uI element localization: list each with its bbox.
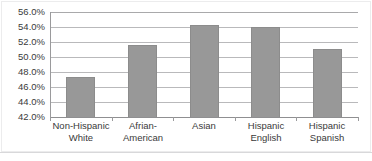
bottom-rule [0,152,372,153]
x-category-label: Asian [173,120,235,132]
y-tick-label: 56.0% [18,7,45,17]
y-tick-label: 54.0% [18,22,45,32]
y-tick-label: 42.0% [18,112,45,122]
bar [66,77,95,117]
bar-chart-figure: 42.0%44.0%46.0%48.0%50.0%52.0%54.0%56.0%… [0,0,372,161]
bar [128,45,157,117]
category-tick [358,117,359,121]
x-category-label: Hispanic Spanish [296,120,358,143]
y-tick-label: 48.0% [18,67,45,77]
y-tick-label: 44.0% [18,97,45,107]
bar [190,25,219,117]
y-tick-label: 52.0% [18,37,45,47]
bars-layer [50,12,358,117]
x-category-label: Non-Hispanic White [50,120,112,143]
x-axis-category-labels: Non-Hispanic WhiteAfrian- AmericanAsianH… [50,120,358,152]
x-category-label: Hispanic English [235,120,297,143]
x-category-label: Afrian- American [112,120,174,143]
plot-area [50,12,358,117]
y-tick-label: 46.0% [18,82,45,92]
y-tick-label: 50.0% [18,52,45,62]
bar [313,49,342,117]
bar [251,27,280,117]
y-axis-tick-labels: 42.0%44.0%46.0%48.0%50.0%52.0%54.0%56.0% [0,0,48,161]
